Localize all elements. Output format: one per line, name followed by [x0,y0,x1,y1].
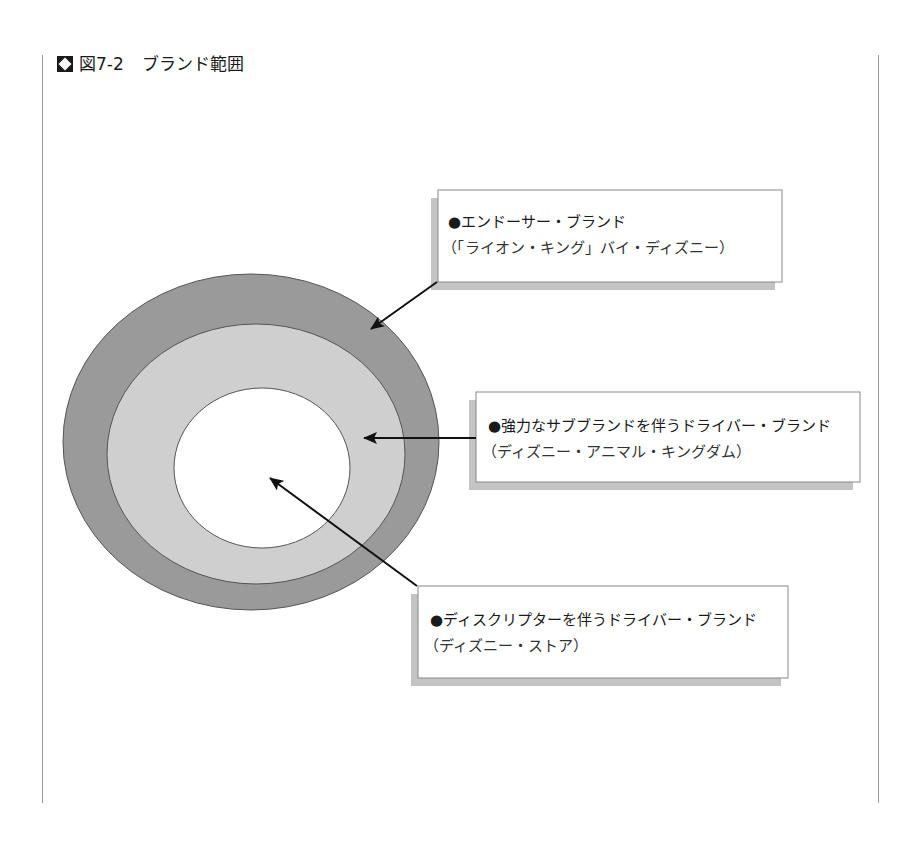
bullet-icon: ● [488,417,501,435]
arrow-to-outer-ring [371,282,437,329]
bullet-icon: ● [430,611,443,629]
callout-example: （ディズニー・ストア） [424,634,588,655]
callout-label: エンドーサー・ブランド [461,213,626,231]
callout-example: （ディズニー・アニマル・キングダム） [482,440,751,461]
callout-label-row: ●強力なサブブランドを伴うドライバー・ブランド [488,414,831,435]
callout-driver-subbrand: ●強力なサブブランドを伴うドライバー・ブランド （ディズニー・アニマル・キングダ… [476,392,860,482]
callout-example: （「ライオン・キング」バイ・ディズニー） [442,236,734,257]
callout-driver-descriptor: ●ディスクリプターを伴うドライバー・ブランド （ディズニー・ストア） [418,586,788,678]
callout-endorser: ●エンドーサー・ブランド （「ライオン・キング」バイ・ディズニー） [438,190,782,282]
bullet-icon: ● [448,213,461,231]
inner-core-descriptor [174,388,350,548]
callout-label-row: ●エンドーサー・ブランド [448,210,626,231]
callout-label-row: ●ディスクリプターを伴うドライバー・ブランド [430,608,757,629]
callout-label: 強力なサブブランドを伴うドライバー・ブランド [501,417,831,435]
callout-label: ディスクリプターを伴うドライバー・ブランド [443,611,757,629]
